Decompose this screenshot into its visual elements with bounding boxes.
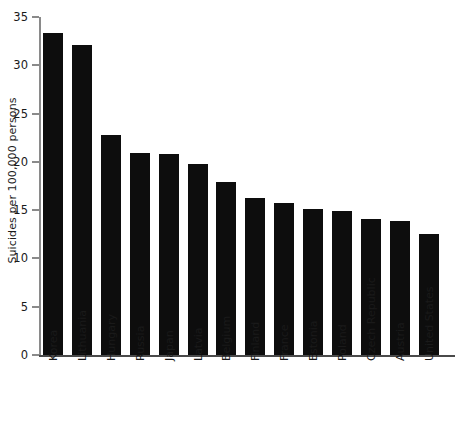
x-axis-label-text: Hungary bbox=[105, 314, 118, 361]
y-axis-tick-mark bbox=[32, 354, 39, 356]
x-axis-label-text: United States bbox=[423, 287, 436, 362]
y-axis-tick-label: 0 bbox=[21, 348, 28, 362]
x-axis-label-text: Japan bbox=[163, 330, 176, 361]
y-axis-tick-mark bbox=[32, 16, 39, 18]
x-axis-label-text: Austria bbox=[394, 322, 407, 361]
bar bbox=[43, 33, 63, 355]
y-axis-tick-label: 15 bbox=[13, 203, 28, 217]
x-axis-label-text: Belgium bbox=[220, 316, 233, 361]
x-axis-line bbox=[39, 355, 455, 357]
y-axis-tick-mark bbox=[32, 306, 39, 308]
bar-chart: Suicides per 100,000 persons 05101520253… bbox=[0, 0, 457, 439]
x-axis-label-text: Russia bbox=[134, 326, 147, 361]
bar bbox=[72, 45, 92, 355]
bar bbox=[159, 154, 179, 355]
y-axis-tick-label: 35 bbox=[13, 10, 28, 24]
x-axis-label-text: Lithuania bbox=[76, 310, 89, 361]
plot-area: 05101520253035 bbox=[39, 17, 457, 355]
y-axis-tick-label: 10 bbox=[13, 251, 28, 265]
y-axis-tick-mark bbox=[32, 209, 39, 211]
x-axis-label-text: Estonia bbox=[307, 321, 320, 362]
y-axis-tick-mark bbox=[32, 257, 39, 259]
x-axis-label-text: Poland bbox=[336, 324, 349, 361]
y-axis-tick-label: 5 bbox=[21, 300, 28, 314]
y-axis-title-label: Suicides per 100,000 persons bbox=[6, 97, 19, 263]
x-axis-label-text: France bbox=[278, 324, 291, 361]
y-axis-tick-label: 30 bbox=[13, 58, 28, 72]
y-axis-tick-label: 20 bbox=[13, 155, 28, 169]
y-axis-tick-mark bbox=[32, 64, 39, 66]
x-axis-label-text: Korea bbox=[47, 330, 60, 361]
x-axis-label-text: Latvia bbox=[192, 328, 205, 362]
y-axis-tick-mark bbox=[32, 113, 39, 115]
bar bbox=[188, 164, 208, 355]
y-axis-tick-label: 25 bbox=[13, 107, 28, 121]
y-axis-line bbox=[39, 17, 41, 355]
y-axis-tick-mark bbox=[32, 161, 39, 163]
x-axis-label-text: Finland bbox=[249, 322, 262, 361]
caption-remnant bbox=[0, 430, 457, 439]
x-axis-label-text: Czech Republic bbox=[365, 277, 378, 361]
